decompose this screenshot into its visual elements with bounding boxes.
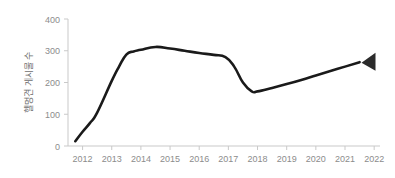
x-tick-label: 2019 xyxy=(277,154,297,164)
x-tick-label: 2015 xyxy=(160,154,180,164)
x-axis-tick-labels: 2012201320142015201620172018201920202021… xyxy=(73,154,385,164)
x-tick-label: 2018 xyxy=(248,154,268,164)
x-tick-label: 2013 xyxy=(102,154,122,164)
x-tick-label: 2021 xyxy=(335,154,355,164)
y-tick-label: 300 xyxy=(45,46,60,56)
x-tick-label: 2022 xyxy=(364,154,384,164)
y-tick-label: 200 xyxy=(45,78,60,88)
x-tick-label: 2020 xyxy=(306,154,326,164)
x-tick-label: 2014 xyxy=(131,154,151,164)
x-tick-label: 2017 xyxy=(218,154,238,164)
x-tick-label: 2016 xyxy=(189,154,209,164)
y-tick-label: 0 xyxy=(55,142,60,152)
y-tick-label: 400 xyxy=(45,15,60,25)
line-chart: 400 300 200 100 0 헬멍견 게시물 수 201220132014… xyxy=(0,0,395,178)
y-axis-title: 헬멍견 게시물 수 xyxy=(23,52,34,113)
x-tick-label: 2012 xyxy=(73,154,93,164)
y-tick-label: 100 xyxy=(45,110,60,120)
